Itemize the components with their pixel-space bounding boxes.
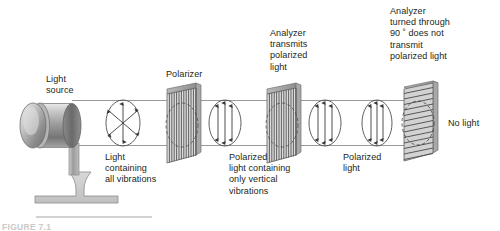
polarizer-panel — [166, 83, 201, 163]
label-analyzer-turned: Analyzer turned through 90 ˚ does not tr… — [390, 6, 450, 62]
polarized-vibration-ellipse-3 — [362, 100, 392, 146]
label-light-all-vibrations: Light containing all vibrations — [105, 152, 156, 186]
analyzer-rotated-panel — [402, 81, 438, 161]
caption-rule — [36, 216, 152, 218]
polarized-vibration-ellipse-2 — [309, 100, 341, 146]
analyzer-panel — [266, 83, 301, 163]
polarized-vibration-ellipse-1 — [209, 100, 241, 146]
light-source-lamp — [20, 103, 118, 203]
label-polarizer: Polarizer — [166, 69, 202, 80]
figure-caption: FIGURE 7.1 — [2, 222, 51, 231]
label-polarized-vertical: Polarized light containing only vertical… — [229, 152, 290, 197]
label-polarized-light: Polarized light — [343, 152, 381, 174]
unpolarized-vibration-ellipse — [106, 100, 140, 146]
label-light-source: Light source — [46, 74, 74, 96]
polarization-diagram: Light source Polarizer Analyzer transmit… — [0, 0, 500, 231]
label-no-light: No light — [448, 118, 479, 129]
label-analyzer-transmits: Analyzer transmits polarized light — [270, 28, 307, 73]
